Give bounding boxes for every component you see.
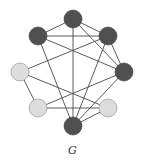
node-upper-right bbox=[99, 27, 117, 45]
node-lower-right bbox=[99, 99, 117, 117]
node-top bbox=[64, 10, 82, 28]
node-left bbox=[11, 63, 29, 81]
edge-D-I bbox=[73, 72, 124, 126]
node-right bbox=[115, 63, 133, 81]
edge-A-D bbox=[73, 19, 124, 72]
graph-diagram bbox=[0, 0, 145, 161]
node-bottom bbox=[64, 117, 82, 135]
nodes-group bbox=[11, 10, 133, 135]
node-lower-left bbox=[29, 99, 47, 117]
graph-caption: G bbox=[0, 144, 145, 157]
node-upper-left bbox=[29, 27, 47, 45]
